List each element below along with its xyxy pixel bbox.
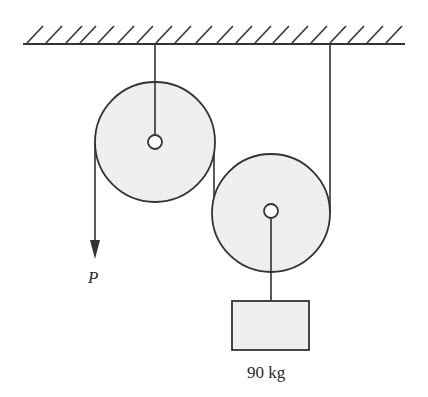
- ceiling-hatching: [27, 26, 402, 43]
- ceiling: [23, 26, 405, 44]
- fixed-pulley: [95, 82, 215, 202]
- load-block: [232, 301, 309, 350]
- force-label: P: [87, 268, 98, 287]
- load-mass-label: 90 kg: [247, 363, 286, 382]
- force-arrow-head: [90, 240, 100, 259]
- fixed-pulley-axle: [148, 135, 162, 149]
- pulley-diagram: P 90 kg: [0, 0, 428, 397]
- movable-pulley-axle: [264, 204, 278, 218]
